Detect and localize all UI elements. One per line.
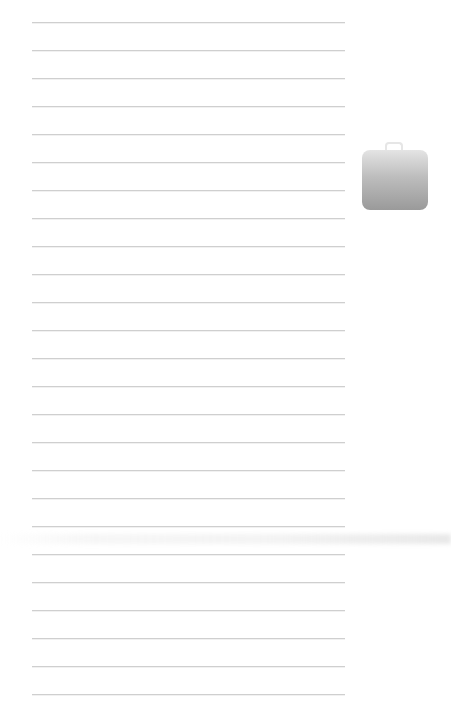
rule-line xyxy=(32,470,345,471)
rule-line xyxy=(32,162,345,163)
briefcase-icon[interactable] xyxy=(362,140,428,210)
rule-line xyxy=(32,50,345,51)
scan-smudge xyxy=(0,534,451,544)
rule-line xyxy=(32,666,345,667)
rule-line xyxy=(32,414,345,415)
rule-line xyxy=(32,358,345,359)
briefcase-body xyxy=(362,150,428,210)
ruled-lines xyxy=(32,0,345,723)
rule-line xyxy=(32,694,345,695)
rule-line xyxy=(32,498,345,499)
rule-line xyxy=(32,274,345,275)
rule-line xyxy=(32,190,345,191)
rule-line xyxy=(32,22,345,23)
rule-line xyxy=(32,302,345,303)
rule-line xyxy=(32,442,345,443)
rule-line xyxy=(32,218,345,219)
rule-line xyxy=(32,610,345,611)
rule-line xyxy=(32,246,345,247)
rule-line xyxy=(32,554,345,555)
rule-line xyxy=(32,78,345,79)
rule-line xyxy=(32,582,345,583)
rule-line xyxy=(32,134,345,135)
rule-line xyxy=(32,330,345,331)
rule-line xyxy=(32,638,345,639)
notebook-page xyxy=(0,0,451,723)
rule-line xyxy=(32,526,345,527)
rule-line xyxy=(32,106,345,107)
rule-line xyxy=(32,386,345,387)
